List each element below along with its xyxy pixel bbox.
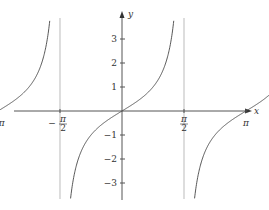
tan-curve-branch xyxy=(0,21,50,199)
y-axis-label: y xyxy=(127,9,134,19)
x-tick-denominator: 2 xyxy=(181,123,187,133)
curves xyxy=(0,21,269,199)
y-tick-label: −2 xyxy=(104,154,117,164)
tangent-graph: x y −3π2−π−π2π2π3π2321−1−2−3 xyxy=(0,0,269,210)
y-axis-arrow-icon xyxy=(120,11,125,18)
x-tick-label: −π xyxy=(0,118,6,128)
x-tick-denominator: 2 xyxy=(60,123,66,133)
axes: x y xyxy=(14,9,259,200)
asymptotes xyxy=(0,18,269,199)
y-tick-label: 1 xyxy=(111,82,117,92)
y-tick-label: −1 xyxy=(104,130,117,140)
x-tick-label: π xyxy=(242,118,250,128)
x-axis-label: x xyxy=(254,106,259,116)
y-tick-label: −3 xyxy=(104,178,118,188)
y-tick-label: 3 xyxy=(111,34,117,44)
x-tick-sign: − xyxy=(48,118,56,128)
plot-area: x y −3π2−π−π2π2π3π2321−1−2−3 xyxy=(0,0,269,210)
y-tick-label: 2 xyxy=(111,58,117,68)
